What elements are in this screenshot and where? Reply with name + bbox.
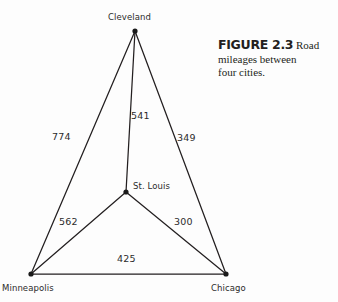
figure-caption: FIGURE 2.3 Road mileages between four ci… [218,38,334,80]
edge-cleveland-minneapolis [31,31,135,274]
edges-group [31,31,226,274]
figure-container: ClevelandSt. LouisMinneapolisChicago 541… [0,0,338,302]
edge-cleveland-chicago [135,31,226,274]
node-chicago[interactable] [223,271,228,276]
edge-label-stlouis-chicago: 300 [174,216,193,227]
edge-label-cleveland-minneapolis: 774 [52,131,71,142]
node-stlouis[interactable] [123,189,128,194]
caption-first-word: Road [296,39,319,51]
caption-line-3: four cities. [218,66,334,80]
edge-label-minneapolis-chicago: 425 [117,253,136,264]
caption-line-2: mileages between [218,53,334,67]
node-label-minneapolis: Minneapolis [2,283,54,293]
node-minneapolis[interactable] [28,271,33,276]
edge-label-cleveland-chicago: 349 [177,132,196,143]
figure-number: FIGURE 2.3 [218,37,293,52]
caption-line-1: FIGURE 2.3 Road [218,38,334,53]
edge-label-stlouis-minneapolis: 562 [59,216,78,227]
edge-label-cleveland-stlouis: 541 [131,110,150,121]
node-label-stlouis: St. Louis [133,181,170,191]
node-cleveland[interactable] [132,28,137,33]
node-label-chicago: Chicago [211,283,246,293]
node-label-cleveland: Cleveland [108,12,151,22]
edge-stlouis-minneapolis [31,192,126,274]
